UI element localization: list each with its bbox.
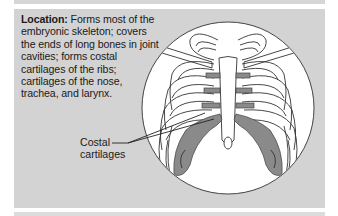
bottom-divider-strip — [14, 212, 325, 216]
costal-cartilages-label: Costal cartilages — [80, 136, 125, 161]
location-heading: Location: — [21, 13, 68, 25]
location-description: Location: Forms most of the embryonic sk… — [21, 13, 161, 100]
label-line-1: Costal — [80, 136, 125, 148]
location-text: Forms most of the embryonic skeleton; co… — [21, 13, 159, 99]
label-line-2: cartilages — [80, 148, 125, 160]
